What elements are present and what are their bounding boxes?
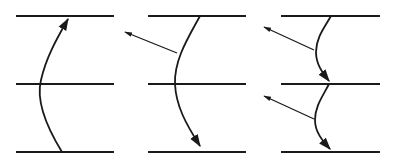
curved-down-arrow-upper <box>316 16 331 81</box>
curved-down-arrow <box>175 16 200 146</box>
panel-2 <box>125 16 246 152</box>
panel-1 <box>16 16 114 152</box>
panel-3 <box>264 16 380 152</box>
emitted-arrow <box>125 32 177 53</box>
curved-down-arrow-lower <box>315 84 330 149</box>
diagram-canvas <box>0 0 394 165</box>
emitted-arrow-lower <box>264 96 314 119</box>
curved-up-arrow <box>40 19 68 152</box>
emitted-arrow-upper <box>264 27 314 50</box>
